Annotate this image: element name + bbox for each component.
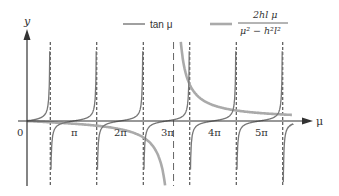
legend-fraction-numerator: 2hl μ	[252, 9, 277, 20]
chart-canvas: y μ 0 π 2π 3π 4π 5π tan μ 2hl μ μ² − h²l…	[0, 0, 339, 196]
curves	[27, 42, 293, 186]
tan-curve-branch	[144, 51, 189, 169]
tick-label-4pi: 4π	[208, 127, 221, 138]
legend: tan μ 2hl μ μ² − h²l²	[123, 9, 288, 36]
tick-label-3pi: 3π	[161, 127, 174, 138]
y-axis-label: y	[23, 15, 31, 28]
tan-curve-branch	[27, 51, 50, 121]
y-axis-arrow-icon	[24, 29, 31, 40]
asymptote-lines	[50, 42, 283, 186]
x-axis-label: μ	[316, 115, 323, 128]
x-axis-arrow-icon	[302, 118, 313, 125]
legend-fraction-denominator: μ² − h²l²	[240, 25, 281, 36]
tan-curve-branch	[283, 124, 293, 182]
tan-curve-branch	[98, 51, 143, 169]
tan-curve-branch	[51, 51, 96, 169]
tick-label-pi: π	[71, 127, 78, 138]
tick-label-5pi: 5π	[255, 127, 268, 138]
tick-label-2pi: 2π	[114, 127, 127, 138]
origin-label: 0	[17, 127, 23, 138]
legend-label-tan: tan μ	[150, 19, 173, 30]
axes	[18, 29, 313, 186]
